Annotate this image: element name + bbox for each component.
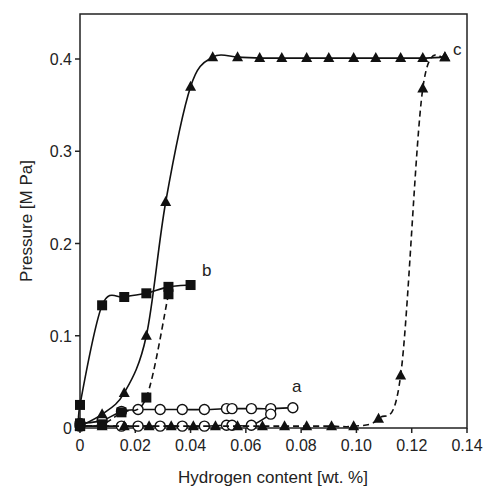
- series-c-desorption: [75, 51, 451, 430]
- square-marker-icon: [75, 400, 85, 410]
- triangle-marker-icon: [370, 52, 381, 62]
- circle-marker-icon: [199, 405, 209, 415]
- circle-marker-icon: [288, 403, 298, 413]
- square-marker-icon: [141, 393, 151, 403]
- y-tick-label: 0.4: [50, 51, 72, 68]
- triangle-marker-icon: [144, 420, 155, 430]
- y-axis-label: Pressure [M Pa]: [17, 160, 36, 282]
- circle-marker-icon: [177, 405, 187, 415]
- series-labels: abc: [202, 40, 462, 396]
- triangle-marker-icon: [97, 408, 108, 418]
- x-axis-label: Hydrogen content [wt. %]: [178, 468, 368, 487]
- triangle-marker-icon: [395, 52, 406, 62]
- series-c: [75, 51, 451, 430]
- circle-marker-icon: [246, 420, 256, 430]
- triangle-marker-icon: [348, 52, 359, 62]
- triangle-marker-icon: [417, 83, 428, 93]
- triangle-marker-icon: [301, 420, 312, 430]
- y-axis-ticks: 00.10.20.30.4: [50, 51, 80, 437]
- square-marker-icon: [119, 292, 129, 302]
- square-marker-icon: [97, 300, 107, 310]
- y-tick-label: 0.3: [50, 143, 72, 160]
- triangle-marker-icon: [417, 52, 428, 62]
- triangle-marker-icon: [301, 52, 312, 62]
- x-tick-label: 0.06: [230, 437, 261, 454]
- circle-marker-icon: [227, 404, 237, 414]
- triangle-marker-icon: [395, 369, 406, 379]
- y-tick-label: 0.2: [50, 236, 72, 253]
- x-tick-label: 0.14: [451, 437, 482, 454]
- x-tick-label: 0.10: [341, 437, 372, 454]
- triangle-marker-icon: [323, 52, 334, 62]
- x-tick-label: 0.12: [396, 437, 427, 454]
- triangle-marker-icon: [254, 52, 265, 62]
- triangle-marker-icon: [160, 196, 171, 206]
- square-marker-icon: [141, 288, 151, 298]
- x-tick-label: 0: [76, 437, 85, 454]
- x-tick-label: 0.02: [120, 437, 151, 454]
- series-label-b: b: [202, 261, 211, 280]
- y-tick-label: 0: [63, 420, 72, 437]
- triangle-marker-icon: [188, 420, 199, 430]
- x-tick-label: 0.04: [175, 437, 206, 454]
- square-marker-icon: [116, 407, 126, 417]
- triangle-marker-icon: [373, 413, 384, 423]
- circle-marker-icon: [266, 409, 276, 419]
- square-marker-icon: [186, 280, 196, 290]
- triangle-marker-icon: [279, 420, 290, 430]
- triangle-marker-icon: [276, 52, 287, 62]
- circle-marker-icon: [246, 404, 256, 414]
- x-tick-label: 0.08: [286, 437, 317, 454]
- triangle-marker-icon: [326, 420, 337, 430]
- triangle-marker-icon: [141, 330, 152, 340]
- y-tick-label: 0.1: [50, 328, 72, 345]
- square-marker-icon: [163, 289, 173, 299]
- series-label-c: c: [453, 40, 462, 59]
- triangle-marker-icon: [166, 420, 177, 430]
- circle-marker-icon: [155, 405, 165, 415]
- pressure-composition-chart: 00.020.040.060.080.100.120.14 00.10.20.3…: [0, 0, 500, 496]
- triangle-marker-icon: [119, 387, 130, 397]
- data-series: [75, 51, 451, 431]
- triangle-marker-icon: [185, 81, 196, 91]
- series-label-a: a: [292, 377, 302, 396]
- x-axis-ticks: 00.020.040.060.080.100.120.14: [76, 428, 483, 454]
